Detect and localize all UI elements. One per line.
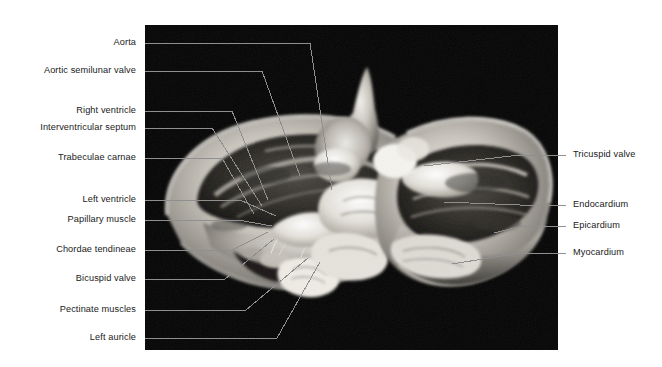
label-endocardium: Endocardium <box>573 199 628 209</box>
label-right-ventricle: Right ventricle <box>76 105 136 115</box>
label-bicuspid-valve: Bicuspid valve <box>76 273 136 283</box>
label-interventricular-septum: Interventricular septum <box>40 122 136 132</box>
label-aortic-semilunar-valve: Aortic semilunar valve <box>44 65 136 75</box>
label-tricuspid-valve: Tricuspid valve <box>573 149 635 159</box>
label-epicardium: Epicardium <box>573 220 620 230</box>
label-chordae-tendineae: Chordae tendineae <box>56 244 136 254</box>
label-papillary-muscle: Papillary muscle <box>68 214 137 224</box>
label-left-auricle: Left auricle <box>90 332 136 342</box>
label-myocardium: Myocardium <box>573 247 624 257</box>
label-trabeculae-carnae: Trabeculae carnae <box>58 152 136 162</box>
label-aorta: Aorta <box>114 37 136 47</box>
label-pectinate-muscles: Pectinate muscles <box>60 304 136 314</box>
heart-specimen-photo <box>145 25 558 350</box>
anatomy-figure: AortaAortic semilunar valveRight ventric… <box>0 0 662 367</box>
heart-specimen-illustration <box>145 25 558 350</box>
label-left-ventricle: Left ventricle <box>83 194 137 204</box>
